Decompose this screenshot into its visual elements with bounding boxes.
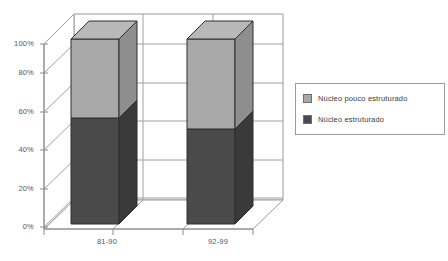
y-tick-label-40: 40% xyxy=(2,145,34,154)
y-tick-label-100: 100% xyxy=(2,39,34,48)
left-wall xyxy=(44,14,74,229)
chart-container: 100% 80% 60% 40% 20% 0% 81-90 92-99 Núcl… xyxy=(0,0,448,261)
y-tick-label-0: 0% xyxy=(2,222,34,231)
bar-1-segment-light xyxy=(71,21,137,118)
legend-item-nucleo-pouco-estruturado[interactable]: Núcleo pouco estruturado xyxy=(303,91,408,105)
y-tick-label-80: 80% xyxy=(2,68,34,77)
legend-label-nucleo-estruturado: Núcleo estruturado xyxy=(318,115,384,124)
y-tick-label-20: 20% xyxy=(2,184,34,193)
legend: Núcleo pouco estruturado Núcleo estrutur… xyxy=(295,83,445,135)
x-category-label-81-90: 81-90 xyxy=(59,237,155,246)
legend-item-nucleo-estruturado[interactable]: Núcleo estruturado xyxy=(303,112,384,126)
x-category-label-92-99: 92-99 xyxy=(170,237,266,246)
y-tick-label-60: 60% xyxy=(2,107,34,116)
legend-swatch-dark-icon xyxy=(303,115,312,124)
legend-swatch-light-icon xyxy=(303,94,312,103)
bar-2-segment-light xyxy=(187,21,253,129)
bar-1-segment-dark xyxy=(71,100,137,224)
x-axis xyxy=(44,229,253,235)
legend-label-nucleo-pouco-estruturado: Núcleo pouco estruturado xyxy=(318,94,408,103)
